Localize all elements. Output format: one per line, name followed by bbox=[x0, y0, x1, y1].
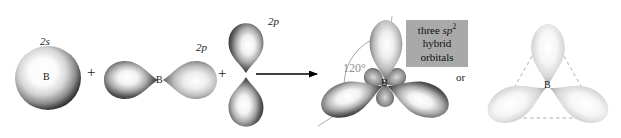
atom-label-hybrid-alt: B bbox=[544, 80, 551, 90]
or-connector-label: or bbox=[456, 72, 465, 83]
sp2-hybridization-figure: 2s B + 2p B + 2p 120° B three sp2 hybrid… bbox=[0, 0, 621, 138]
caption-line-2: hybrid bbox=[412, 37, 462, 50]
hybrid-alt-lobe-lower-left bbox=[482, 73, 554, 131]
caption-line-1: three sp2 bbox=[412, 24, 462, 37]
hybrid-alt-lobe-up bbox=[531, 24, 564, 86]
orbital-2p-vertical-label: 2p bbox=[268, 16, 279, 27]
plus-sign-second: + bbox=[218, 66, 226, 81]
caption-superscript: 2 bbox=[452, 22, 456, 31]
orbital-2s-label: 2s bbox=[40, 36, 50, 47]
plus-sign-first: + bbox=[87, 65, 95, 80]
atom-label-p-horizontal: B bbox=[156, 75, 163, 85]
hybrid-orbitals-caption: three sp2 hybrid orbitals bbox=[406, 20, 468, 67]
caption-prefix: three bbox=[418, 24, 443, 36]
orbital-2p-horizontal-label: 2p bbox=[196, 42, 207, 53]
orbital-2p-vertical bbox=[229, 23, 264, 126]
atom-label-sphere: B bbox=[43, 72, 50, 82]
hybrid-alt-lobe-lower-right bbox=[543, 73, 615, 131]
caption-line-3: orbitals bbox=[412, 51, 462, 64]
bond-angle-label: 120° bbox=[343, 62, 366, 74]
atom-label-hybrid: B bbox=[381, 78, 388, 88]
sp2-hybrid-orbital-set-alternate bbox=[482, 24, 615, 130]
caption-symbol: sp bbox=[443, 24, 453, 36]
